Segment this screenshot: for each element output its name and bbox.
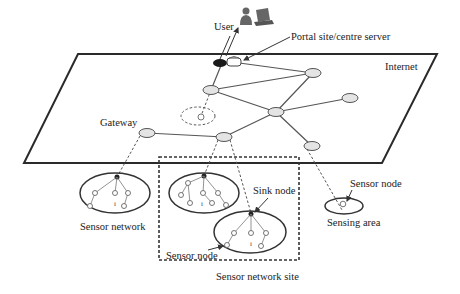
internet-plane	[24, 54, 437, 163]
user-label: User	[214, 21, 234, 32]
portal-label: Portal site/centre server	[291, 31, 391, 42]
site-cluster-upper: i	[169, 173, 239, 213]
gateway-label: Gateway	[100, 117, 138, 128]
router-node	[304, 142, 320, 151]
router-node	[305, 69, 321, 78]
svg-text:i: i	[114, 200, 116, 208]
sensing-area	[325, 198, 363, 214]
sensor-node-label-area: Sensor node	[350, 178, 402, 189]
router-node	[268, 108, 284, 117]
sensor-network-cluster: i	[80, 173, 150, 213]
sensor-node-label-site: Sensor node	[166, 250, 218, 261]
gateway-node	[139, 129, 155, 138]
sensor-network-site-label: Sensor network site	[216, 271, 299, 282]
user-access-node	[213, 59, 227, 67]
sink-node-label: Sink node	[253, 185, 296, 196]
site-cluster-lower: i	[214, 211, 286, 253]
user-icon	[240, 8, 252, 26]
laptop-icon	[254, 8, 274, 26]
svg-text:i: i	[201, 200, 203, 208]
svg-text:i: i	[250, 240, 252, 248]
sensor-network-diagram: User Portal site/centre server Internet …	[0, 0, 460, 294]
internet-label: Internet	[385, 61, 418, 72]
router-node	[203, 86, 219, 95]
portal-server-icon	[227, 58, 241, 66]
router-node	[342, 94, 358, 103]
sensing-area-label: Sensing area	[327, 217, 381, 228]
sensor-network-label: Sensor network	[80, 221, 146, 232]
internet-routers	[139, 69, 358, 151]
